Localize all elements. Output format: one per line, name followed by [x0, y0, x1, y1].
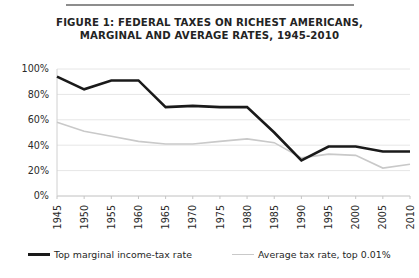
y-axis-tick-label: 60%: [28, 114, 49, 125]
x-axis-tick-label: 1990: [296, 205, 307, 229]
x-axis-tick-label: 1970: [187, 205, 198, 229]
x-axis-tick-label: 1960: [133, 205, 144, 229]
x-axis-tick-label: 1980: [242, 205, 253, 229]
legend-item-top-marginal-income-tax-rate: Top marginal income-tax rate: [28, 249, 192, 260]
x-axis-tick-label: 1975: [215, 205, 226, 229]
x-axis-tick-label: 2010: [405, 205, 416, 229]
line-chart-svg: 0%20%40%60%80%100% 194519501955196019651…: [0, 0, 419, 278]
figure-container: FIGURE 1: FEDERAL TAXES ON RICHEST AMERI…: [0, 0, 419, 278]
x-axis-tick-label: 2000: [350, 205, 361, 229]
x-axis-tick-labels: 1945195019551960196519701975198019851990…: [52, 205, 416, 229]
x-axis-tick-label: 2005: [377, 205, 388, 229]
legend-label-top-marginal-income-tax-rate: Top marginal income-tax rate: [54, 249, 192, 260]
legend-item-average-tax-rate-top-001: Average tax rate, top 0.01%: [232, 249, 391, 260]
legend-swatch-line-icon: [232, 254, 254, 255]
x-axis-tick-label: 1955: [106, 205, 117, 229]
legend-label-average-tax-rate-top-001: Average tax rate, top 0.01%: [258, 249, 391, 260]
x-axis-tick-label: 1985: [269, 205, 280, 229]
y-axis-tick-labels: 0%20%40%60%80%100%: [22, 63, 49, 201]
chart-legend: Top marginal income-tax rate Average tax…: [0, 249, 419, 267]
data-series-group: [57, 77, 410, 168]
gridlines-group: [57, 69, 410, 196]
y-axis-tick-label: 80%: [28, 89, 49, 100]
x-axis-tick-label: 1945: [52, 205, 63, 229]
y-axis-tick-label: 20%: [28, 165, 49, 176]
y-axis-tick-label: 0%: [34, 190, 49, 201]
chart-plot-area: 0%20%40%60%80%100% 194519501955196019651…: [0, 0, 419, 278]
x-axis-tick-label: 1965: [160, 205, 171, 229]
series-line-top-marginal-income-tax-rate: [57, 77, 410, 161]
legend-swatch-line-icon: [28, 253, 50, 255]
x-axis-tick-label: 1950: [79, 205, 90, 229]
y-axis-tick-label: 40%: [28, 140, 49, 151]
x-axis-tick-label: 1995: [323, 205, 334, 229]
y-axis-tick-label: 100%: [22, 63, 49, 74]
